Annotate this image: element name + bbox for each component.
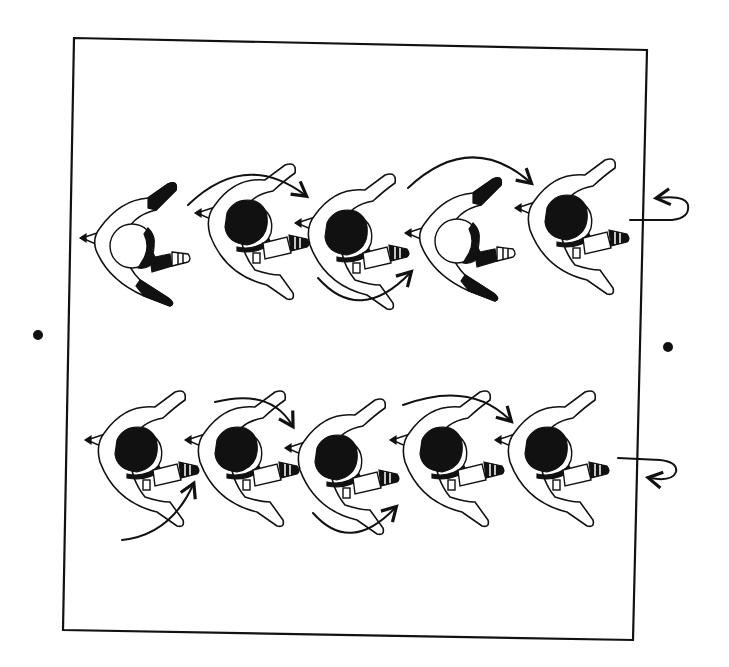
turn-arrow-icon [630, 197, 688, 220]
skater-top-5 [515, 159, 629, 294]
skater-bottom-3 [285, 399, 399, 534]
skater-bottom-4 [390, 391, 504, 526]
right-marker-dot [663, 342, 673, 352]
skater-formation-diagram [0, 0, 729, 667]
skater-top-4 [405, 178, 515, 301]
skater-top-2 [195, 164, 309, 299]
rotation-arrow-icon [408, 157, 530, 188]
bottom-row [85, 391, 676, 540]
diagram-canvas [0, 0, 729, 667]
left-marker-dot [33, 330, 43, 340]
skater-top-1 [80, 183, 190, 306]
turn-arrow-icon [618, 458, 676, 479]
skater-bottom-5 [495, 391, 609, 526]
rink-frame [63, 38, 647, 640]
top-row [80, 157, 688, 309]
